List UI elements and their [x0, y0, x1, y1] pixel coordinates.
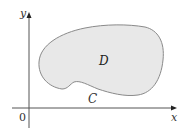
region-label: D: [99, 55, 109, 67]
curve-label: C: [88, 93, 97, 105]
x-axis-label: x: [171, 112, 177, 123]
diagram-svg: [0, 0, 191, 137]
x-axis-arrow-icon: [171, 106, 177, 111]
y-axis-label: y: [20, 8, 26, 19]
y-axis-arrow-icon: [27, 12, 32, 18]
origin-label: 0: [19, 112, 26, 123]
diagram-canvas: y x 0 D C: [0, 0, 191, 137]
